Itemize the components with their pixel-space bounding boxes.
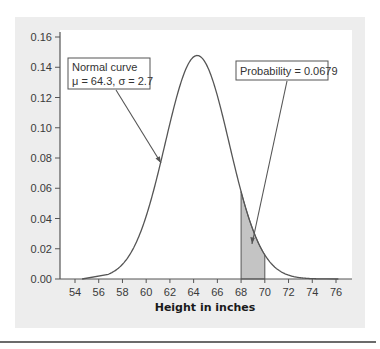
- x-tick-label: 76: [330, 286, 342, 298]
- x-axis: 545658606264666870727476: [60, 279, 352, 298]
- x-tick-label: 66: [211, 286, 223, 298]
- x-tick-label: 64: [188, 286, 200, 298]
- x-tick-label: 70: [259, 286, 271, 298]
- x-tick-label: 74: [306, 286, 318, 298]
- x-tick-label: 58: [116, 286, 128, 298]
- y-tick-label: 0.06: [31, 182, 52, 194]
- y-tick-label: 0.10: [31, 122, 52, 134]
- probability-annotation-text: Probability = 0.0679: [240, 65, 338, 77]
- x-axis-title: Height in inches: [155, 301, 256, 314]
- x-tick-label: 54: [69, 286, 81, 298]
- y-tick-label: 0.04: [31, 213, 52, 225]
- curve-annotation-line2: μ = 64.3, σ = 2.7: [72, 75, 153, 87]
- x-tick-label: 60: [140, 286, 152, 298]
- x-tick-label: 72: [282, 286, 294, 298]
- normal-distribution-chart: 0.000.020.040.060.080.100.120.140.16 545…: [0, 0, 380, 349]
- y-tick-label: 0.00: [31, 273, 52, 285]
- y-tick-label: 0.14: [31, 61, 52, 73]
- x-tick-label: 56: [93, 286, 105, 298]
- x-tick-label: 68: [235, 286, 247, 298]
- y-axis: 0.000.020.040.060.080.100.120.140.16: [31, 31, 60, 285]
- y-tick-label: 0.12: [31, 92, 52, 104]
- y-tick-label: 0.02: [31, 243, 52, 255]
- curve-annotation-line1: Normal curve: [72, 61, 137, 73]
- x-tick-label: 62: [164, 286, 176, 298]
- y-tick-label: 0.16: [31, 31, 52, 43]
- bottom-rule: [0, 341, 376, 343]
- y-tick-label: 0.08: [31, 152, 52, 164]
